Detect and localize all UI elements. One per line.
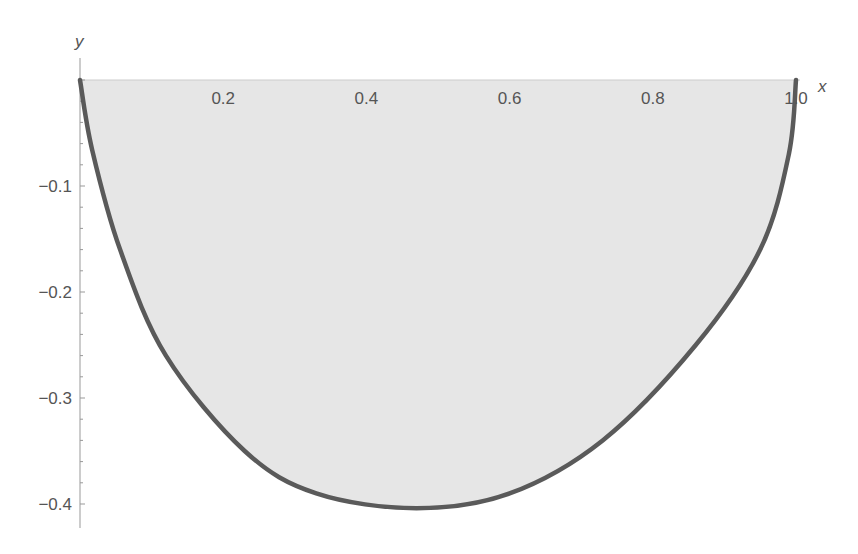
x-tick-label: 0.8 — [641, 89, 665, 108]
x-tick-label: 0.6 — [498, 89, 522, 108]
area-fill — [80, 80, 796, 508]
y-tick-label: −0.3 — [38, 389, 72, 408]
chart: 0.20.40.60.81.0−0.1−0.2−0.3−0.4xy — [0, 0, 858, 554]
y-axis-label: y — [74, 32, 85, 51]
x-tick-label: 1.0 — [784, 89, 808, 108]
area-fill-path — [80, 80, 796, 508]
x-axis-label: x — [817, 77, 827, 96]
x-tick-label: 0.4 — [355, 89, 379, 108]
plot-area: 0.20.40.60.81.0−0.1−0.2−0.3−0.4xy — [0, 0, 858, 554]
x-tick-label: 0.2 — [211, 89, 235, 108]
y-tick-label: −0.4 — [38, 495, 72, 514]
y-tick-label: −0.2 — [38, 283, 72, 302]
y-tick-label: −0.1 — [38, 177, 72, 196]
